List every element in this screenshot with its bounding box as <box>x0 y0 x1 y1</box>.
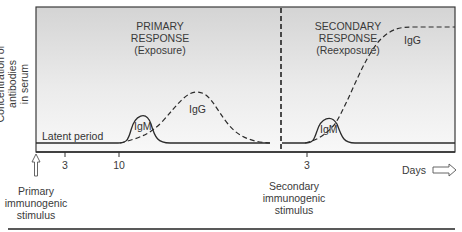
secondary-stimulus-line1: Secondary <box>254 180 334 192</box>
secondary-igm-label: IgM <box>320 123 338 135</box>
primary-stimulus-arrow-icon <box>32 154 40 176</box>
latent-period-label: Latent period <box>42 130 103 142</box>
tick-label-3-secondary: 3 <box>301 159 313 171</box>
y-axis-label-line1: Concentration of antibodies <box>0 24 18 144</box>
y-axis-label: Concentration of antibodies in serum <box>0 24 30 144</box>
tick-label-3-primary: 3 <box>59 159 71 171</box>
y-axis-label-line2: in serum <box>18 24 30 144</box>
tick-label-10: 10 <box>111 159 127 171</box>
primary-stimulus-line1: Primary <box>2 185 70 197</box>
secondary-title-line3: (Reexposure) <box>293 44 403 56</box>
primary-response-title: PRIMARY RESPONSE (Exposure) <box>110 20 210 56</box>
secondary-stimulus-line2: immunogenic <box>254 192 334 204</box>
x-axis-label-days: Days <box>402 164 426 176</box>
primary-stimulus-label: Primary immunogenic stimulus <box>2 185 70 221</box>
secondary-igg-label: IgG <box>404 34 421 46</box>
secondary-title-line2: RESPONSE <box>293 32 403 44</box>
secondary-stimulus-label: Secondary immunogenic stimulus <box>254 180 334 216</box>
secondary-response-title: SECONDARY RESPONSE (Reexposure) <box>293 20 403 56</box>
primary-title-line1: PRIMARY <box>110 20 210 32</box>
primary-stimulus-line2: immunogenic <box>2 197 70 209</box>
secondary-title-line1: SECONDARY <box>293 20 403 32</box>
primary-igm-label: IgM <box>134 120 152 132</box>
primary-title-line2: RESPONSE <box>110 32 210 44</box>
primary-stimulus-line3: stimulus <box>2 209 70 221</box>
primary-igg-label: IgG <box>189 103 206 115</box>
primary-title-line3: (Exposure) <box>110 44 210 56</box>
secondary-stimulus-line3: stimulus <box>254 204 334 216</box>
days-arrow-icon <box>433 164 456 176</box>
